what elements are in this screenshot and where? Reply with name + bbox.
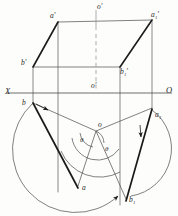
label-o: o xyxy=(98,121,102,129)
label-o-prime-top: o' xyxy=(97,3,102,11)
projector-lines xyxy=(33,20,152,205)
top-view-thin-edges xyxy=(33,103,152,199)
rotation-arcs xyxy=(13,103,172,212)
label-theta-right: θ xyxy=(105,146,108,153)
label-b1-prime: b₁' xyxy=(120,68,128,76)
rotation-arc-outer-b-to-b1 xyxy=(13,103,118,212)
top-view-thick-edges xyxy=(33,103,152,201)
rotation-arc-small-right xyxy=(96,131,104,143)
drawing-canvas xyxy=(0,0,178,216)
front-edge-right xyxy=(120,20,152,67)
label-axis-o: O xyxy=(166,86,172,95)
arrow-down-a1-side xyxy=(140,125,141,137)
technical-drawing-figure: a' a₁' b₁' b' o' o' X O b a₁ a b₁ o θ θ xyxy=(0,0,178,216)
top-edge-o-to-a1 xyxy=(96,108,152,131)
label-a1-prime: a₁' xyxy=(151,11,159,19)
front-edge-top xyxy=(58,20,152,22)
label-a-prime: a' xyxy=(50,12,55,20)
arrow-b-to-a1-direction xyxy=(36,104,48,110)
front-view-thin-edges xyxy=(33,20,152,67)
label-a1: a₁ xyxy=(155,111,161,119)
front-view-thick-edges xyxy=(33,20,152,67)
top-edge-o-to-b1 xyxy=(96,131,126,199)
front-edge-left xyxy=(33,22,58,67)
rotation-arc-a1-to-b1 xyxy=(131,110,171,196)
label-axis-x: X xyxy=(5,87,10,96)
direction-arrows xyxy=(36,104,141,137)
top-edge-a1-to-b1 xyxy=(126,109,152,201)
top-edge-b-to-a xyxy=(33,103,78,188)
label-o-prime-axis: o' xyxy=(91,82,96,90)
label-b: b xyxy=(22,99,26,107)
label-a: a xyxy=(82,184,86,192)
label-b-prime: b' xyxy=(21,59,26,67)
label-b1: b₁ xyxy=(129,196,135,204)
label-theta-left: θ xyxy=(80,137,83,144)
